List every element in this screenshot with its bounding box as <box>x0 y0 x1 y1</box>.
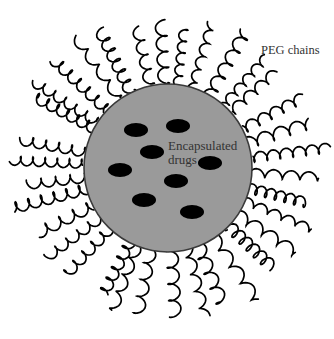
peg-chain <box>188 22 213 88</box>
peg-chain <box>75 35 122 97</box>
drug-particle <box>180 205 204 219</box>
peg-chain <box>248 169 318 182</box>
drug-particle <box>140 145 164 159</box>
peg-chain <box>20 138 86 157</box>
peg-chain <box>245 184 305 208</box>
peg-chains-label: PEG chains <box>261 43 320 57</box>
peg-chain <box>133 26 154 84</box>
encapsulated-drugs-label-line2: drugs <box>168 153 248 167</box>
drug-particle <box>166 119 190 133</box>
peg-chain <box>9 157 82 168</box>
peg-chain <box>101 242 135 295</box>
encapsulated-drugs-label: Encapsulated drugs <box>168 139 248 167</box>
drug-particle <box>164 174 188 188</box>
peg-chain <box>196 243 225 305</box>
peg-chain <box>242 198 311 233</box>
drug-particle <box>132 193 156 207</box>
peg-chain <box>166 251 181 318</box>
drug-particle <box>124 123 148 137</box>
peg-chain <box>156 20 170 84</box>
peg-chain <box>243 94 303 132</box>
peg-chain <box>174 30 188 88</box>
peg-chain <box>253 144 330 163</box>
drug-particle <box>108 163 132 177</box>
peg-chain <box>40 203 94 237</box>
peg-chain <box>235 211 296 256</box>
peg-chain <box>109 243 141 311</box>
peg-chain <box>26 173 85 188</box>
encapsulated-drugs-label-line1: Encapsulated <box>168 139 248 153</box>
peg-chain <box>15 186 91 213</box>
peg-chain <box>97 27 136 93</box>
peg-chain <box>244 119 308 146</box>
